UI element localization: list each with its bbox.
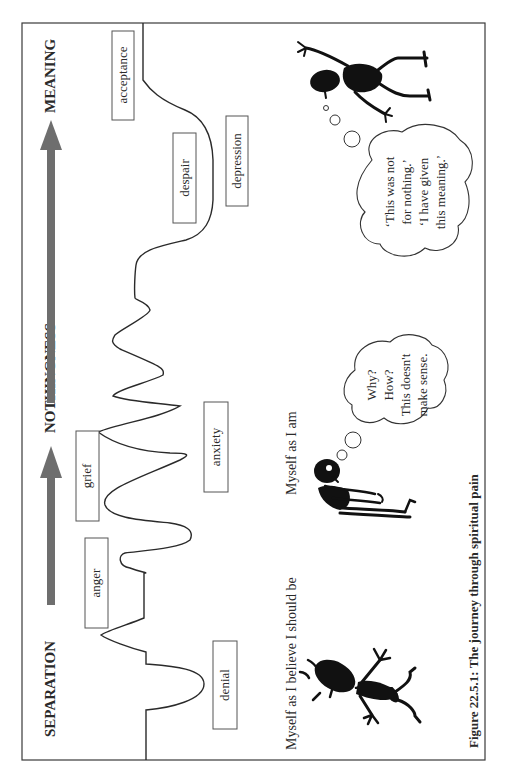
stick-figure-ideal-self-icon	[300, 649, 420, 724]
svg-text:How?: How?	[381, 369, 396, 400]
stick-figure-actual-self-icon	[314, 459, 415, 517]
svg-text:this meaning.’: this meaning.’	[433, 155, 448, 229]
emotion-acceptance: acceptance	[112, 31, 134, 120]
figure-label-ideal-self: Myself as I believe I should be	[284, 577, 299, 750]
thought-dot-small-2	[330, 115, 340, 125]
thought-dot-large-2	[344, 131, 360, 147]
emotion-boxes: denial anger grief anxiety despair depre…	[76, 31, 248, 729]
svg-text:anger: anger	[88, 568, 103, 598]
svg-text:‘This was not: ‘This was not	[382, 156, 397, 227]
svg-text:denial: denial	[217, 669, 232, 701]
stage-separation: SEPARATION	[42, 641, 58, 737]
emotion-anger: anger	[85, 538, 108, 628]
svg-text:depression: depression	[229, 133, 244, 189]
figure-label-actual-self: Myself as I am	[284, 411, 299, 495]
svg-text:for nothing.’: for nothing.’	[399, 159, 414, 225]
stick-figure-meaning-icon	[298, 42, 430, 122]
svg-text:grief: grief	[79, 463, 94, 488]
emotion-despair: despair	[173, 133, 196, 223]
svg-text:anxiety: anxiety	[208, 427, 223, 466]
arrow-separation-to-nothingness-icon	[40, 446, 62, 605]
figure-canvas: SEPARATION NOTHINGNESS MEANING denial an…	[0, 0, 512, 778]
svg-text:This doesn't: This doesn't	[398, 353, 413, 416]
svg-text:acceptance: acceptance	[115, 46, 130, 103]
thought-dot-large	[345, 432, 361, 448]
thought-dot-tiny	[324, 106, 329, 111]
stage-meaning: MEANING	[42, 39, 58, 113]
svg-text:‘I have given: ‘I have given	[416, 157, 431, 226]
thought-dot-small	[337, 450, 347, 460]
svg-text:Why?: Why?	[364, 369, 379, 400]
svg-text:despair: despair	[177, 159, 192, 197]
thought-cloud-actual-self: Why? How? This doesn't make sense.	[344, 335, 448, 424]
emotion-denial: denial	[213, 641, 237, 729]
thought-cloud-meaning: ‘This was not for nothing.’ ‘I have give…	[357, 124, 472, 256]
svg-text:make sense.: make sense.	[415, 354, 430, 417]
emotion-anxiety: anxiety	[204, 402, 228, 492]
emotion-depression: depression	[226, 116, 248, 206]
emotion-grief: grief	[76, 431, 99, 521]
figure-caption: Figure 22.5.1: The journey through spiri…	[466, 473, 481, 748]
